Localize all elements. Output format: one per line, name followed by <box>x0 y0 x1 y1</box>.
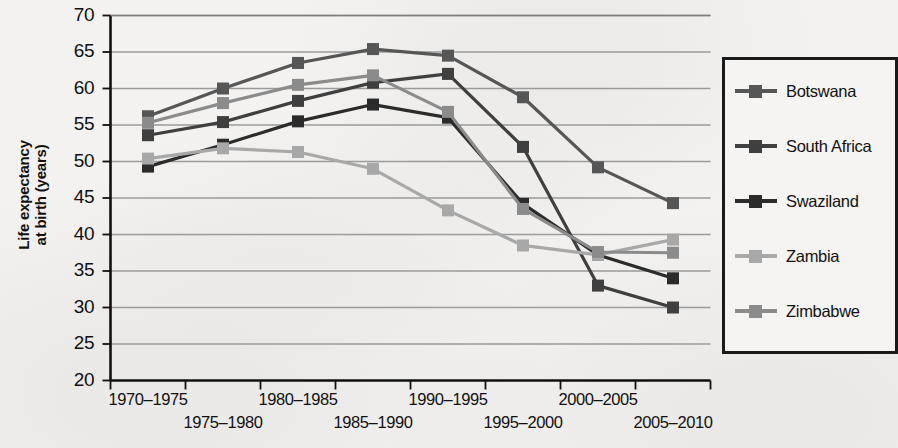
x-axis-tick-label: 1970–1975 <box>88 390 208 409</box>
legend-swatch-icon <box>735 82 777 100</box>
legend-marker-square <box>749 305 762 318</box>
legend-marker-square <box>749 195 762 208</box>
legend-marker-square <box>749 250 762 263</box>
data-point-marker <box>367 43 379 55</box>
data-point-marker <box>667 197 679 209</box>
data-point-marker <box>292 115 304 127</box>
data-point-marker <box>517 141 529 153</box>
data-point-marker <box>367 69 379 81</box>
data-point-marker <box>517 203 529 215</box>
y-axis-tick-label: 60 <box>50 77 94 99</box>
x-axis-tick-label: 2005–2010 <box>613 413 733 432</box>
data-point-marker <box>292 57 304 69</box>
data-point-marker <box>292 95 304 107</box>
x-axis-tick-label: 1975–1980 <box>163 413 283 432</box>
y-axis-tick-label: 40 <box>50 223 94 245</box>
y-axis-tick-label: 30 <box>50 296 94 318</box>
chart-figure: Life expectancy at birth (years) 7065605… <box>0 0 898 448</box>
legend-item-south-africa[interactable]: South Africa <box>735 133 871 159</box>
x-axis-tick-label: 1995–2000 <box>463 413 583 432</box>
data-point-marker <box>667 234 679 246</box>
y-axis-tick-label: 55 <box>50 113 94 135</box>
data-point-marker <box>217 83 229 95</box>
legend-swatch-icon <box>735 137 777 155</box>
y-axis-tick-label: 70 <box>50 4 94 26</box>
data-point-marker <box>217 142 229 154</box>
data-point-marker <box>667 247 679 259</box>
y-axis-tick-label: 50 <box>50 150 94 172</box>
data-point-marker <box>592 280 604 292</box>
legend-label: Botswana <box>786 82 856 101</box>
data-point-marker <box>442 106 454 118</box>
data-point-marker <box>142 117 154 129</box>
legend-label: Zambia <box>786 247 839 266</box>
x-axis-tick-label: 1985–1990 <box>313 413 433 432</box>
y-axis-title-line-1: Life expectancy <box>15 100 32 290</box>
x-axis-tick-label: 1980–1985 <box>238 390 358 409</box>
data-point-marker <box>142 129 154 141</box>
y-axis-tick-label: 35 <box>50 259 94 281</box>
legend-marker-square <box>749 85 762 98</box>
y-axis-title: Life expectancy at birth (years) <box>15 100 49 290</box>
legend-marker-square <box>749 140 762 153</box>
legend-item-zambia[interactable]: Zambia <box>735 243 839 269</box>
data-point-marker <box>592 161 604 173</box>
legend-label: Zimbabwe <box>786 302 860 321</box>
y-axis-tick-label: 45 <box>50 186 94 208</box>
legend-label: South Africa <box>786 137 871 156</box>
data-point-marker <box>592 246 604 258</box>
data-point-marker <box>292 79 304 91</box>
legend-label: Swaziland <box>786 192 859 211</box>
y-axis-title-line-2: at birth (years) <box>32 100 49 290</box>
data-point-marker <box>367 99 379 111</box>
legend-item-swaziland[interactable]: Swaziland <box>735 188 859 214</box>
x-axis-tick-label: 1990–1995 <box>388 390 508 409</box>
data-point-marker <box>442 68 454 80</box>
data-point-marker <box>442 50 454 62</box>
data-point-marker <box>217 97 229 109</box>
legend-item-zimbabwe[interactable]: Zimbabwe <box>735 298 860 324</box>
data-point-marker <box>367 163 379 175</box>
data-point-marker <box>667 302 679 314</box>
legend-swatch-icon <box>735 247 777 265</box>
chart-legend: BotswanaSouth AfricaSwazilandZambiaZimba… <box>722 57 898 354</box>
y-axis-tick-label: 20 <box>50 369 94 391</box>
data-point-marker <box>517 239 529 251</box>
data-point-marker <box>667 272 679 284</box>
data-point-marker <box>442 204 454 216</box>
x-axis-tick-label: 2000–2005 <box>538 390 658 409</box>
series-zambia <box>142 142 679 261</box>
legend-swatch-icon <box>735 302 777 320</box>
data-series-group <box>142 43 679 313</box>
data-point-marker <box>217 116 229 128</box>
data-point-marker <box>292 146 304 158</box>
data-point-marker <box>517 91 529 103</box>
legend-item-botswana[interactable]: Botswana <box>735 78 856 104</box>
legend-swatch-icon <box>735 192 777 210</box>
axis-tick-marks <box>103 16 711 390</box>
y-axis-tick-label: 25 <box>50 332 94 354</box>
y-axis-tick-label: 65 <box>50 40 94 62</box>
data-point-marker <box>142 153 154 165</box>
